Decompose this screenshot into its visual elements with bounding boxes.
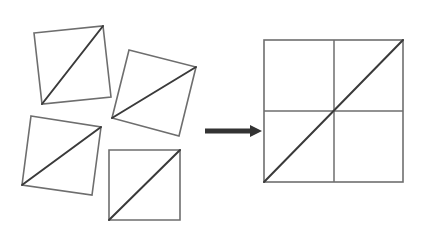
piece-1-diagonal — [42, 26, 103, 104]
square-piece-1 — [34, 26, 111, 104]
square-piece-4 — [109, 150, 180, 220]
square-piece-2 — [112, 50, 196, 136]
piece-2-diagonal — [112, 67, 196, 118]
square-piece-3 — [22, 116, 101, 195]
scattered-pieces — [22, 26, 196, 220]
right-arrow-icon — [205, 125, 262, 137]
arrow-head — [250, 125, 262, 137]
assembled-square — [264, 40, 403, 182]
piece-3-diagonal — [22, 127, 101, 185]
piece-4-diagonal — [109, 150, 180, 220]
diagram-canvas — [0, 0, 432, 234]
